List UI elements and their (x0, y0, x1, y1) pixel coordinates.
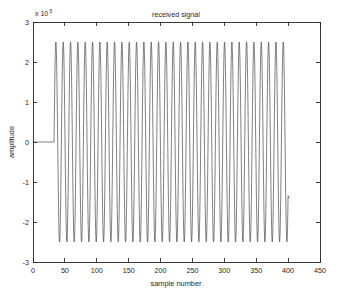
y-tick-label: 2 (25, 58, 29, 67)
x-tick-label: 250 (186, 266, 198, 275)
y-tick-label: -1 (23, 178, 29, 187)
x-tick-label: 100 (91, 266, 103, 275)
y-tick-label: 0 (25, 138, 29, 147)
x-tick-label: 450 (314, 266, 326, 275)
plot-title: received signal (152, 10, 200, 19)
x-axis-label: sample number (151, 279, 202, 288)
y-tick-label: -2 (23, 218, 29, 227)
x-tick-label: 200 (155, 266, 167, 275)
y-axis-label: amplitude (7, 126, 16, 158)
x-tick-label: 0 (31, 266, 35, 275)
y-tick-label: 3 (25, 18, 29, 27)
x-tick-label: 400 (282, 266, 294, 275)
y-tick-label: 1 (25, 98, 29, 107)
figure-canvas: received signal x 10 5 3210-1-2-3 050100… (0, 0, 344, 294)
x-tick-label: 300 (218, 266, 230, 275)
y-exponent-prefix: x 10 (35, 10, 48, 17)
y-exponent-superscript: 5 (50, 8, 53, 14)
figure-background (0, 0, 344, 294)
y-tick-label: -3 (23, 258, 29, 267)
x-tick-label: 50 (61, 266, 69, 275)
x-tick-label: 350 (250, 266, 262, 275)
plot-svg: received signal x 10 5 3210-1-2-3 050100… (0, 0, 344, 294)
x-tick-label: 150 (123, 266, 135, 275)
